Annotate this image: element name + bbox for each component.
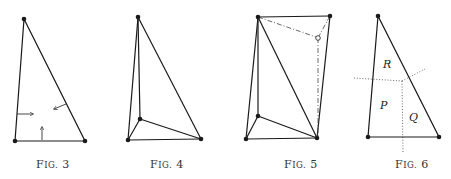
vertex-dot	[328, 14, 333, 19]
vertex-dot	[13, 139, 18, 144]
vertex-dot	[126, 138, 131, 143]
figure-6	[354, 14, 441, 152]
figure-4	[126, 15, 204, 143]
edge	[138, 17, 140, 119]
region-label-r: R	[382, 58, 391, 71]
vertex-dot	[244, 137, 249, 142]
dotted-bisector	[354, 78, 402, 81]
vertex-dot	[315, 136, 320, 141]
vertex-dot	[437, 135, 442, 140]
hidden-vertex-open-circle	[316, 36, 321, 41]
vertex-dot	[256, 114, 261, 119]
vertex-dot	[83, 139, 88, 144]
region-label-p: P	[379, 99, 388, 112]
edge	[138, 17, 201, 139]
caption-fig-3: FIG. 3	[36, 158, 70, 171]
figure-5	[244, 14, 333, 142]
inward-arrow-right	[54, 104, 66, 109]
edge	[317, 16, 330, 138]
edge	[246, 138, 317, 139]
edge	[258, 16, 330, 17]
vertex-dot	[256, 15, 261, 20]
vertex-dot	[136, 15, 141, 20]
triangle	[15, 19, 85, 141]
figure-panel: FIG. 3 FIG. 4	[0, 0, 451, 179]
triangle	[368, 16, 439, 137]
caption-fig-5: FIG. 5	[284, 158, 318, 171]
edge	[128, 139, 201, 140]
vertex-dot	[376, 14, 381, 19]
region-label-q: Q	[409, 111, 418, 124]
edge	[128, 17, 138, 140]
vertex-dot	[199, 137, 204, 142]
vertex-dot	[366, 135, 371, 140]
caption-fig-4: FIG. 4	[150, 158, 184, 171]
figure-3	[13, 17, 88, 144]
vertex-dot	[138, 117, 143, 122]
vertex-dot	[22, 17, 27, 22]
caption-fig-6: FIG. 6	[395, 158, 429, 171]
dotted-bisector	[402, 81, 403, 152]
